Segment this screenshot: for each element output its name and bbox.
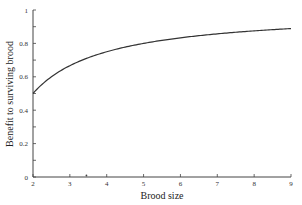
y-tick-label: 0.2 (19, 140, 28, 148)
axes (33, 10, 291, 177)
y-tick-label: 0 (25, 174, 29, 182)
x-tick-label: 4 (105, 180, 109, 188)
y-axis-title: Benefit to surviving brood (4, 41, 15, 147)
x-tick-label: 3 (68, 180, 72, 188)
benefit-curve (33, 29, 291, 94)
y-tick-label: 0.4 (19, 107, 28, 115)
x-tick-label: 6 (179, 180, 183, 188)
ticks: 00.20.40.60.8123456789 (19, 7, 293, 189)
x-tick-label: 9 (289, 180, 293, 188)
x-tick-label: 8 (252, 180, 256, 188)
y-tick-label: 0.8 (19, 40, 28, 48)
y-tick-label: 1 (25, 7, 29, 15)
x-axis-marker (86, 175, 88, 177)
chart: 00.20.40.60.8123456789 Brood size Benefi… (0, 0, 302, 205)
x-axis-title: Brood size (140, 190, 184, 201)
y-tick-label: 0.6 (19, 73, 28, 81)
x-tick-label: 7 (216, 180, 220, 188)
x-tick-label: 5 (142, 180, 146, 188)
x-tick-label: 2 (31, 180, 35, 188)
